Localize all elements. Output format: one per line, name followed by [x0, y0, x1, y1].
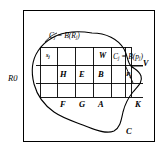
top-equation-label: Cj = B(Rj) [49, 32, 80, 41]
outer-region-label: R0 [8, 74, 17, 83]
cell-label-h: H [60, 70, 67, 79]
right-equation-label: Cj = B(pj) [113, 53, 143, 62]
point-label-sj: sj [46, 52, 50, 60]
cell-label-e: E [79, 70, 85, 79]
cell-label-b: B [98, 70, 104, 79]
point-label-pj: Pj [126, 71, 131, 79]
cell-label-f: F [60, 100, 66, 109]
cell-label-v: V [143, 60, 148, 68]
cell-label-g: G [79, 100, 85, 109]
cell-label-w: W [99, 52, 106, 60]
cell-label-a: A [98, 100, 104, 109]
figure-container: R0 Cj = B(Rj) Cj = B(pj) sj Pj H E B W V… [0, 0, 164, 151]
outer-region-rect [24, 11, 155, 142]
cell-label-k: K [135, 100, 141, 109]
curve-label-c: C [126, 127, 132, 136]
